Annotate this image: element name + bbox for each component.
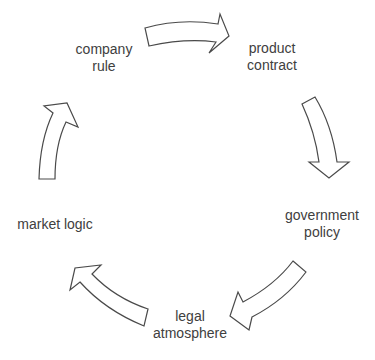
node-label-line: product (230, 40, 314, 57)
curved-arrow-down-icon (302, 97, 349, 178)
curved-arrow-down-left-icon (230, 261, 306, 330)
node-product-contract: product contract (230, 40, 314, 74)
node-label-line: market logic (10, 216, 100, 233)
node-label-line: atmosphere (140, 325, 240, 342)
curved-arrow-right-icon (145, 14, 229, 53)
node-label-line: government (272, 207, 372, 224)
node-label-line: policy (272, 224, 372, 241)
node-legal-atmosphere: legal atmosphere (140, 308, 240, 342)
curved-arrow-up-icon (39, 103, 78, 179)
node-market-logic: market logic (10, 216, 100, 233)
curved-arrow-up-left-icon (70, 265, 148, 326)
cycle-diagram (0, 0, 375, 360)
node-label-line: rule (64, 58, 144, 75)
node-company-rule: company rule (64, 41, 144, 75)
node-government-policy: government policy (272, 207, 372, 241)
node-label-line: contract (230, 57, 314, 74)
node-label-line: legal (140, 308, 240, 325)
node-label-line: company (64, 41, 144, 58)
